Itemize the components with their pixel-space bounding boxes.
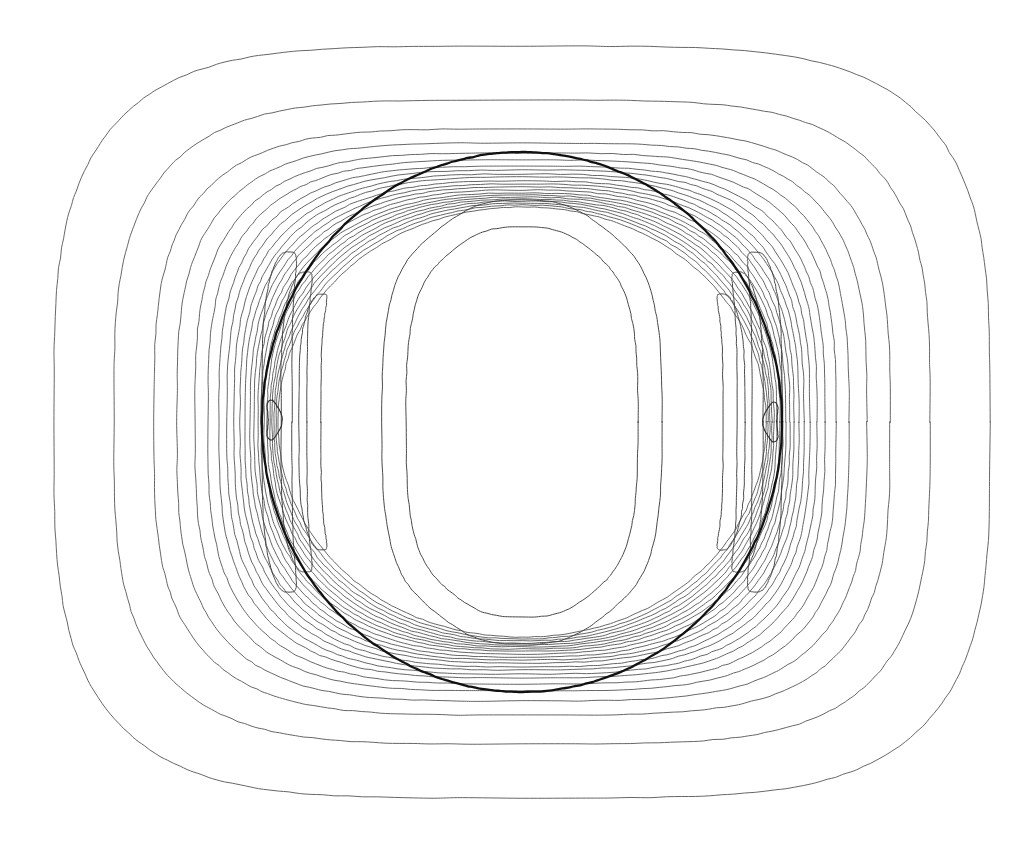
contour-plot-canvas [0,0,1030,841]
contour-figure [0,0,1030,841]
